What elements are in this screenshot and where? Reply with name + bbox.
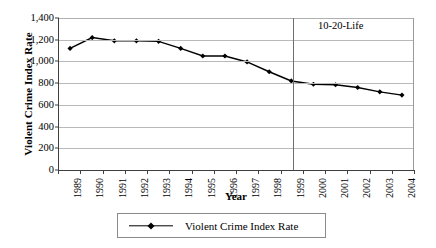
y-axis-tick-label: 1,200 bbox=[30, 34, 54, 45]
x-axis-tick-mark bbox=[214, 170, 215, 174]
y-axis-tick-mark bbox=[55, 39, 59, 40]
data-point-marker bbox=[267, 69, 272, 74]
x-axis-tick-mark bbox=[392, 170, 393, 174]
gridline bbox=[59, 127, 413, 128]
x-axis-tick-mark bbox=[147, 170, 148, 174]
x-axis-tick-label: 2004 bbox=[407, 178, 417, 198]
x-axis-tick-label: 1995 bbox=[207, 178, 217, 198]
legend-entry-label: Violent Crime Index Rate bbox=[185, 220, 298, 232]
x-axis-tick-label: 2000 bbox=[318, 178, 328, 198]
x-axis-tick-label: 1999 bbox=[296, 178, 306, 198]
x-axis-tick-mark bbox=[58, 170, 59, 174]
y-axis-tick-label: 1,400 bbox=[30, 13, 54, 24]
x-axis-tick-label: 1992 bbox=[140, 178, 150, 198]
x-axis-tick-label: 2001 bbox=[340, 178, 350, 198]
x-axis-tick-label: 2003 bbox=[385, 178, 395, 198]
x-axis-tick-mark bbox=[303, 170, 304, 174]
violent-crime-index-rate-chart: Violent Crime Index Rate 02004006008001,… bbox=[0, 0, 436, 248]
x-axis-tick-mark bbox=[103, 170, 104, 174]
gridline bbox=[59, 18, 413, 19]
y-axis-tick-label: 0 bbox=[49, 165, 54, 176]
data-point-marker bbox=[355, 85, 360, 90]
gridline bbox=[59, 61, 413, 62]
x-axis-tick-mark bbox=[370, 170, 371, 174]
y-axis-tick-label: 400 bbox=[38, 121, 54, 132]
x-axis-tick-mark bbox=[258, 170, 259, 174]
legend: Violent Crime Index Rate bbox=[117, 213, 326, 238]
x-axis-tick-mark bbox=[325, 170, 326, 174]
x-axis-tick-mark bbox=[125, 170, 126, 174]
y-axis-tick-mark bbox=[55, 104, 59, 105]
y-axis-tick-mark bbox=[55, 61, 59, 62]
x-axis-tick-mark bbox=[347, 170, 348, 174]
y-axis-tick-label: 800 bbox=[38, 78, 54, 89]
plot-area: 02004006008001,0001,2001,40010-20-Life bbox=[58, 18, 414, 170]
y-axis-tick-mark bbox=[55, 148, 59, 149]
data-point-marker bbox=[222, 53, 227, 58]
y-axis-tick-label: 600 bbox=[38, 100, 54, 111]
x-axis-tick-mark bbox=[414, 170, 415, 174]
annotation-vertical-line bbox=[293, 18, 294, 170]
y-axis-tick-mark bbox=[55, 83, 59, 84]
annotation-label: 10-20-Life bbox=[318, 20, 363, 31]
y-axis-tick-label: 1,000 bbox=[30, 56, 54, 67]
series-line bbox=[59, 18, 413, 170]
x-axis-tick-mark bbox=[281, 170, 282, 174]
x-axis-tick-label: 1989 bbox=[73, 178, 83, 198]
y-axis-tick-mark bbox=[55, 18, 59, 19]
x-axis-tick-label: 1994 bbox=[184, 178, 194, 198]
data-point-marker bbox=[377, 89, 382, 94]
x-axis-tick-mark bbox=[236, 170, 237, 174]
gridline bbox=[59, 83, 413, 84]
gridline bbox=[59, 40, 413, 41]
x-axis-tick-label: 1990 bbox=[95, 178, 105, 198]
x-axis-tick-mark bbox=[169, 170, 170, 174]
x-axis-tick-label: 1991 bbox=[118, 178, 128, 198]
data-point-marker bbox=[399, 92, 404, 97]
data-point-marker bbox=[67, 46, 72, 51]
x-axis-tick-label: 1997 bbox=[251, 178, 261, 198]
gridline bbox=[59, 105, 413, 106]
y-axis-tick-label: 200 bbox=[38, 143, 54, 154]
x-axis-tick-label: 1993 bbox=[162, 178, 172, 198]
y-axis-tick-mark bbox=[55, 126, 59, 127]
legend-marker-icon bbox=[129, 220, 173, 232]
x-axis-tick-label: 1998 bbox=[273, 178, 283, 198]
x-axis-tick-label: 2002 bbox=[362, 178, 372, 198]
x-axis-tick-label: 1996 bbox=[229, 178, 239, 198]
x-axis-tick-mark bbox=[192, 170, 193, 174]
x-axis-tick-mark bbox=[80, 170, 81, 174]
data-point-marker bbox=[200, 53, 205, 58]
gridline bbox=[59, 148, 413, 149]
data-point-marker bbox=[178, 46, 183, 51]
